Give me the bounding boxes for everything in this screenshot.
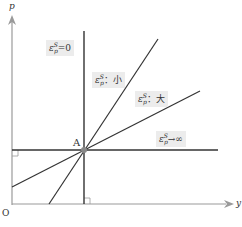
diagram-canvas xyxy=(0,0,242,227)
supply-line-steep xyxy=(49,39,158,204)
p-axis-label: p xyxy=(9,2,15,11)
label-vertical-supply: εSp=0 xyxy=(46,40,74,56)
point-a-label: A xyxy=(73,138,80,148)
label-steep-supply: εSp：小 xyxy=(92,72,125,88)
point-a-marker xyxy=(81,147,87,153)
label-horizontal-supply: εSp→∞ xyxy=(156,131,186,147)
label-shallow-supply: εSp：大 xyxy=(135,91,168,107)
y-axis-label: y xyxy=(236,199,241,208)
origin-label: O xyxy=(2,209,9,218)
right-angle-mark-bottom xyxy=(84,198,90,204)
right-angle-mark-left xyxy=(12,150,18,156)
